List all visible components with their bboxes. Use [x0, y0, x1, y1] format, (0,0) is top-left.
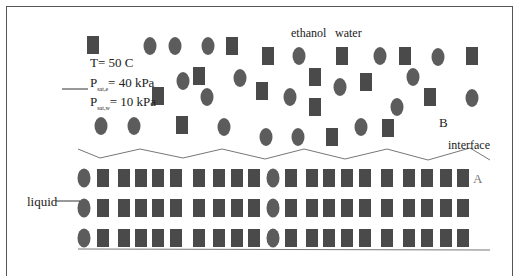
temperature-label: T= 50 C [90, 56, 133, 69]
water-molecule [306, 229, 318, 247]
water-molecule [152, 229, 164, 247]
water-molecule [87, 36, 99, 54]
ethanol-molecule [177, 72, 190, 90]
ethanol-molecule [128, 117, 141, 135]
ethanol-legend-label: ethanol [291, 27, 326, 39]
water-molecule [440, 229, 452, 247]
water-molecule [382, 119, 394, 137]
p-sat-water-subscript: sat,w [97, 105, 110, 111]
p-sat-ethanol-subscript: sat,e [97, 86, 108, 92]
water-molecule [285, 169, 297, 187]
p-sat-water-value: = 10 kPa [110, 94, 156, 109]
ethanol-molecule [466, 89, 479, 107]
ethanol-molecule [374, 47, 387, 65]
water-molecule [306, 199, 318, 217]
water-molecule [262, 47, 274, 65]
ethanol-molecule [391, 98, 404, 116]
water-molecule [118, 169, 130, 187]
water-molecule [248, 229, 260, 247]
ethanol-molecule [284, 88, 297, 106]
water-molecule [256, 82, 268, 100]
water-molecule [323, 169, 335, 187]
water-molecule [213, 229, 225, 247]
water-molecule [118, 199, 130, 217]
water-molecule [226, 37, 238, 55]
ethanol-molecule [78, 229, 91, 248]
water-molecule [248, 169, 260, 187]
ethanol-molecule [144, 37, 157, 55]
water-molecule [231, 229, 243, 247]
water-molecule [403, 169, 415, 187]
water-molecule [231, 169, 243, 187]
water-molecule [381, 169, 393, 187]
ethanol-molecule [293, 47, 306, 65]
region-a-label: A [473, 172, 482, 185]
ethanol-molecule [407, 68, 420, 86]
ethanol-molecule [169, 37, 182, 55]
water-molecule [326, 128, 338, 146]
region-b-label: B [439, 116, 448, 129]
water-molecule [381, 199, 393, 217]
water-molecule [457, 229, 469, 247]
water-molecule [323, 229, 335, 247]
water-molecule [135, 169, 147, 187]
water-molecule [360, 73, 372, 91]
water-molecule [97, 169, 109, 187]
ethanol-molecule [201, 88, 214, 106]
ethanol-molecule [78, 169, 91, 188]
water-molecule [231, 199, 243, 217]
water-molecule [285, 229, 297, 247]
water-molecule [341, 199, 353, 217]
water-molecule [118, 229, 130, 247]
water-molecule [193, 229, 205, 247]
water-molecule [359, 169, 371, 187]
water-molecule [421, 229, 433, 247]
water-molecule [309, 98, 321, 116]
ethanol-molecule [355, 118, 368, 136]
water-molecule [421, 199, 433, 217]
water-molecule [403, 199, 415, 217]
ethanol-molecule [267, 229, 280, 248]
liquid-bottom-line [78, 249, 490, 250]
ethanol-molecule [202, 37, 215, 55]
water-molecule [421, 169, 433, 187]
water-molecule [170, 169, 182, 187]
interface-line [78, 148, 490, 160]
water-molecule [359, 229, 371, 247]
liquid-phase [78, 169, 470, 248]
ethanol-molecule [334, 78, 347, 96]
p-sat-ethanol-value: = 40 kPa [108, 75, 154, 90]
water-molecule [306, 169, 318, 187]
water-molecule [170, 229, 182, 247]
water-molecule [97, 199, 109, 217]
water-molecule [466, 47, 478, 65]
water-molecule [193, 169, 205, 187]
water-molecule [152, 169, 164, 187]
water-molecule [341, 169, 353, 187]
water-molecule [424, 88, 436, 106]
ethanol-molecule [432, 48, 445, 66]
ethanol-molecule [95, 117, 108, 135]
ethanol-molecule [260, 128, 273, 146]
water-molecule [440, 199, 452, 217]
p-sat-water-label: Psat,w= 10 kPa [90, 95, 156, 111]
interface-label: interface [448, 139, 490, 151]
ethanol-molecule [292, 128, 305, 146]
water-molecule [381, 229, 393, 247]
water-molecule [323, 199, 335, 217]
water-molecule [213, 199, 225, 217]
water-molecule [193, 67, 205, 85]
ethanol-molecule [234, 69, 247, 87]
water-molecule [170, 199, 182, 217]
water-molecule [359, 199, 371, 217]
ethanol-molecule [218, 118, 231, 136]
water-legend-label: water [335, 27, 362, 39]
water-molecule [457, 169, 469, 187]
water-molecule [176, 116, 188, 134]
liquid-label: liquid [27, 195, 57, 208]
ethanol-molecule [267, 169, 280, 188]
water-molecule [193, 199, 205, 217]
water-molecule [152, 199, 164, 217]
water-molecule [403, 229, 415, 247]
